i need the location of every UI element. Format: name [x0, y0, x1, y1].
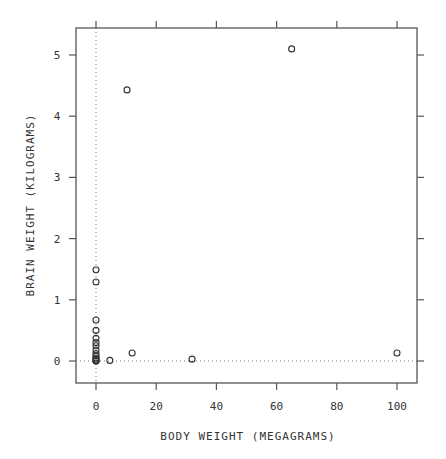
y-tick-label: 2 [54, 233, 61, 246]
scatter-chart: 020406080100 012345 BODY WEIGHT (MEGAGRA… [0, 0, 446, 459]
reference-lines [76, 28, 417, 383]
x-tick-label: 0 [93, 400, 100, 413]
data-point [394, 350, 400, 356]
data-point [93, 317, 99, 323]
y-tick-label: 0 [54, 355, 61, 368]
x-tick-label: 80 [330, 400, 343, 413]
y-tick-label: 4 [54, 110, 61, 123]
y-axis: 012345 [54, 49, 424, 368]
data-point [107, 357, 113, 363]
data-point [129, 350, 135, 356]
data-point [289, 46, 295, 52]
x-tick-label: 60 [270, 400, 283, 413]
plot-frame [76, 28, 417, 383]
x-tick-label: 20 [150, 400, 163, 413]
y-tick-label: 3 [54, 171, 61, 184]
y-axis-title: BRAIN WEIGHT (KILOGRAMS) [24, 114, 37, 297]
x-axis-title: BODY WEIGHT (MEGAGRAMS) [160, 430, 335, 443]
data-points [93, 46, 400, 364]
x-tick-label: 40 [210, 400, 223, 413]
data-point [124, 87, 130, 93]
y-tick-label: 5 [54, 49, 61, 62]
x-axis: 020406080100 [93, 21, 407, 413]
y-tick-label: 1 [54, 294, 61, 307]
x-tick-label: 100 [387, 400, 407, 413]
data-point [93, 267, 99, 273]
